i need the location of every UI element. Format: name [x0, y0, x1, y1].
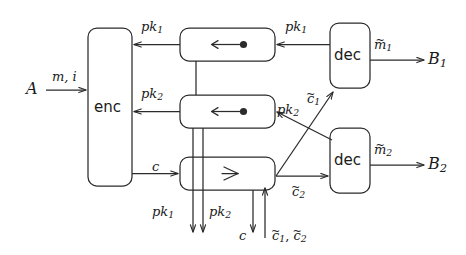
tilde-wrap: ~m: [374, 143, 386, 156]
edge-label-bottom-ctilde-pair: ~c1, ~c2: [272, 229, 307, 243]
edge-label-m-i: m, i: [52, 70, 77, 83]
subscript: 1: [386, 42, 392, 53]
node-dec1-label: dec: [334, 48, 361, 63]
terminal-a-label: A: [26, 81, 38, 97]
edge-label-c: c: [152, 160, 159, 173]
edge-label-mtilde2: ~m2: [374, 143, 392, 157]
edge-label-pk1-right: pk1: [285, 20, 307, 34]
terminal-b1-label: B1: [428, 51, 447, 69]
subscript: 1: [301, 24, 307, 35]
tilde-accent: ~: [271, 226, 280, 237]
subscript: 2: [157, 91, 163, 102]
subscript: 2: [225, 209, 231, 220]
edge-label-bottom-pk1: pk1: [152, 205, 174, 219]
diagram-canvas: A m, i enc dec dec pk1 pk1 pk2 pk2 c ~c1…: [0, 0, 466, 255]
subscript: 1: [157, 24, 163, 35]
tilde-wrap: ~c: [272, 229, 279, 242]
tilde-accent: ~: [293, 226, 302, 237]
tilde-accent: ~: [376, 140, 385, 151]
tilde-wrap: ~m: [374, 38, 386, 51]
edge-label-bottom-pk2: pk2: [209, 205, 231, 219]
terminal-b2-label: B2: [428, 156, 447, 174]
tilde-wrap: ~c: [292, 185, 299, 198]
tilde-accent: ~: [376, 35, 385, 46]
edge-label-ctilde2: ~c2: [292, 185, 305, 199]
node-dec2-label: dec: [334, 153, 361, 168]
node-enc-label: enc: [94, 100, 121, 115]
subscript: 2: [386, 147, 392, 158]
edge-label-pk2-right: pk2: [277, 103, 299, 117]
tilde-wrap: ~c: [307, 92, 314, 105]
subscript: 2: [293, 107, 299, 118]
subscript: 2: [440, 161, 447, 175]
edge-label-bottom-c: c: [239, 229, 246, 242]
tilde-accent: ~: [306, 89, 315, 100]
splitter-fanout-glyph: [222, 167, 238, 180]
subscript: 1: [168, 209, 174, 220]
edge-label-mtilde1: ~m1: [374, 38, 392, 52]
edge-label-ctilde1: ~c1: [307, 92, 320, 106]
tilde-accent: ~: [291, 182, 300, 193]
edge-label-pk2-left: pk2: [141, 87, 163, 101]
diagram-svg: [0, 0, 466, 255]
buffer2-delay-glyph: [212, 108, 248, 116]
edge-label-pk1-top: pk1: [141, 20, 163, 34]
tilde-wrap: ~c: [294, 229, 301, 242]
buffer1-delay-glyph: [212, 41, 248, 49]
subscript: 1: [440, 56, 447, 70]
